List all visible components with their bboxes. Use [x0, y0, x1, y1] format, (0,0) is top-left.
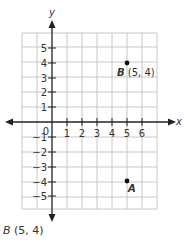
- y-tick-label: −3: [32, 162, 47, 173]
- y-axis-arrow-up-icon: [49, 20, 56, 28]
- caption-point-name: B: [3, 224, 11, 237]
- x-axis-arrow-left-icon: [5, 119, 13, 126]
- y-axis-arrow-down-icon: [49, 214, 56, 222]
- y-tick-label: −1: [32, 132, 47, 143]
- caption-coords: (5, 4): [14, 224, 44, 237]
- coordinate-plane: y x 0 1 2 3 4 5 6 5 4 3 2 1 −1 −2 −3 −4 …: [0, 0, 184, 243]
- y-tick-label: 5: [41, 43, 47, 54]
- x-tick-label: 3: [94, 128, 100, 139]
- x-tick-label: 4: [109, 128, 115, 139]
- x-tick-label: 2: [79, 128, 85, 139]
- x-tick-label: 5: [124, 128, 130, 139]
- y-tick-label: 4: [41, 58, 47, 69]
- x-axis-arrow-right-icon: [168, 119, 176, 126]
- x-axis-label: x: [175, 116, 182, 127]
- point-b: [125, 61, 130, 66]
- y-axis-label: y: [48, 7, 56, 18]
- y-tick-label: 3: [41, 73, 47, 84]
- point-b-label: B (5, 4): [117, 67, 155, 78]
- y-tick-label: −5: [32, 191, 47, 202]
- y-tick-label: −4: [32, 177, 47, 188]
- y-tick-label: −2: [32, 147, 47, 158]
- axes: [9, 24, 172, 218]
- point-a-label: A: [127, 183, 136, 194]
- y-tick-label: 1: [41, 102, 47, 113]
- x-tick-label: 6: [139, 128, 145, 139]
- x-tick-label: 1: [64, 128, 70, 139]
- answer-caption: B (5, 4): [3, 224, 44, 237]
- y-tick-label: 2: [41, 87, 47, 98]
